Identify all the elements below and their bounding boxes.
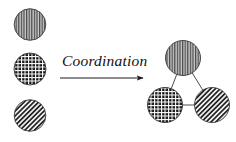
coordination-label: Coordination (62, 52, 147, 69)
particle-vertical-stripe[interactable] (14, 9, 46, 41)
particle-vertical-stripe-disc[interactable] (14, 9, 46, 41)
particle-diagonal-stripe-disc[interactable] (14, 100, 46, 132)
particle-crosshatch-disc[interactable] (14, 53, 46, 85)
assembly-node-bottom-left[interactable] (148, 88, 183, 123)
figure-canvas: Coordination (0, 0, 236, 142)
reactant-particle-group (14, 9, 46, 132)
coordination-arrow-group: Coordination (60, 52, 147, 78)
particle-crosshatch[interactable] (14, 53, 46, 85)
assembly-node-bottom-right[interactable] (195, 88, 230, 123)
assembly-node-top[interactable] (166, 41, 201, 76)
assembly-group (148, 41, 230, 123)
particle-diagonal-stripe[interactable] (14, 100, 46, 132)
schematic-svg: Coordination (0, 0, 236, 142)
